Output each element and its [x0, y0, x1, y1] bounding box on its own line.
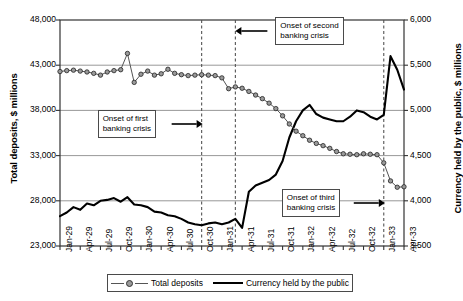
series-marker-total-deposits	[348, 152, 352, 156]
series-marker-total-deposits	[274, 106, 278, 110]
x-axis-tick-label: Apr-33	[408, 226, 418, 252]
series-marker-total-deposits	[375, 153, 379, 157]
series-marker-total-deposits	[166, 67, 170, 71]
annotation-first-line1: Onset of first	[103, 114, 151, 124]
series-marker-total-deposits	[139, 72, 143, 76]
x-axis-tick-label: Jan-33	[387, 226, 397, 252]
series-marker-total-deposits	[233, 85, 237, 89]
x-axis-tick-label: Oct-30	[205, 226, 215, 252]
x-axis-tick-label: Jul-30	[185, 229, 195, 252]
y-axis-left-title: Total deposits, $ millions	[8, 54, 19, 204]
legend-marker-icon-deposits	[126, 280, 133, 287]
series-marker-total-deposits	[321, 143, 325, 147]
series-marker-total-deposits	[368, 152, 372, 156]
x-axis-tick-label: Jul-29	[104, 229, 114, 252]
series-marker-total-deposits	[301, 134, 305, 138]
x-axis-tick-label: Oct-31	[286, 226, 296, 252]
x-axis-tick-label: Oct-29	[124, 226, 134, 252]
x-axis-tick-label: Jul-32	[347, 229, 357, 252]
series-marker-total-deposits	[71, 68, 75, 72]
y-axis-right-tick-label: 5,500	[410, 59, 452, 69]
series-marker-total-deposits	[213, 73, 217, 77]
series-marker-total-deposits	[78, 69, 82, 73]
legend-item-currency: Currency held by the public	[213, 278, 349, 288]
series-marker-total-deposits	[253, 93, 257, 97]
annotation-second-line1: Onset of second	[280, 21, 338, 31]
y-axis-left-tick-label: 28,000	[14, 195, 56, 205]
x-axis-tick-label: Jan-31	[225, 226, 235, 252]
x-axis-tick-label: Apr-29	[84, 226, 94, 252]
series-marker-total-deposits	[314, 141, 318, 145]
series-marker-total-deposits	[65, 68, 69, 72]
series-marker-total-deposits	[206, 73, 210, 77]
y-axis-left-tick-label: 43,000	[14, 59, 56, 69]
series-marker-total-deposits	[220, 76, 224, 80]
series-marker-total-deposits	[382, 161, 386, 165]
series-marker-total-deposits	[179, 72, 183, 76]
legend-item-total-deposits: Total deposits	[111, 278, 203, 288]
series-marker-total-deposits	[287, 122, 291, 126]
series-marker-total-deposits	[260, 96, 264, 100]
series-marker-total-deposits	[145, 69, 149, 73]
x-axis-tick-label: Apr-31	[246, 226, 256, 252]
y-axis-right-tick-label: 5,000	[410, 104, 452, 114]
y-axis-left-tick-label: 38,000	[14, 104, 56, 114]
y-axis-right-title: Currency held by the public, $ millions	[452, 44, 463, 214]
annotation-third-line2: banking crisis	[287, 203, 335, 213]
series-marker-total-deposits	[199, 72, 203, 76]
y-axis-right-tick-label: 6,000	[410, 14, 452, 24]
x-axis-tick-label: Jan-32	[306, 226, 316, 252]
series-marker-total-deposits	[280, 114, 284, 118]
series-marker-total-deposits	[112, 68, 116, 72]
series-marker-total-deposits	[119, 68, 123, 72]
annotation-third-line1: Onset of third	[287, 193, 335, 203]
series-marker-total-deposits	[341, 152, 345, 156]
series-marker-total-deposits	[334, 149, 338, 153]
series-marker-total-deposits	[92, 71, 96, 75]
x-axis-tick-label: Oct-32	[367, 226, 377, 252]
annotation-second-line2: banking crisis	[280, 31, 338, 41]
series-marker-total-deposits	[247, 89, 251, 93]
series-marker-total-deposits	[388, 179, 392, 183]
legend-line-icon-deposits	[111, 283, 124, 284]
series-marker-total-deposits	[132, 80, 136, 84]
series-marker-total-deposits	[172, 71, 176, 75]
series-marker-total-deposits	[355, 153, 359, 157]
x-axis-tick-label: Apr-30	[165, 226, 175, 252]
series-marker-total-deposits	[98, 73, 102, 77]
y-axis-left-tick-label: 48,000	[14, 14, 56, 24]
legend-line-icon-currency	[213, 282, 243, 285]
x-axis-tick-label: Jan-29	[64, 226, 74, 252]
y-axis-left-tick-label: 33,000	[14, 150, 56, 160]
series-marker-total-deposits	[328, 146, 332, 150]
annotation-first-line2: banking crisis	[103, 124, 151, 134]
series-marker-total-deposits	[125, 51, 129, 55]
series-marker-total-deposits	[240, 86, 244, 90]
legend-label-total-deposits: Total deposits	[151, 278, 203, 288]
y-axis-left-tick-label: 23,000	[14, 240, 56, 250]
series-marker-total-deposits	[85, 70, 89, 74]
x-axis-tick-label: Jul-31	[266, 229, 276, 252]
series-marker-total-deposits	[395, 185, 399, 189]
legend-line-icon-deposits-2	[135, 283, 148, 284]
series-marker-total-deposits	[159, 72, 163, 76]
x-axis-tick-label: Apr-32	[327, 226, 337, 252]
series-marker-total-deposits	[361, 152, 365, 156]
series-marker-total-deposits	[105, 70, 109, 74]
series-marker-total-deposits	[226, 87, 230, 91]
annotation-second-banking-crisis: Onset of second banking crisis	[275, 17, 343, 45]
series-marker-total-deposits	[307, 138, 311, 142]
series-marker-total-deposits	[193, 73, 197, 77]
series-marker-total-deposits	[267, 101, 271, 105]
chart-legend: Total deposits Currency held by the publ…	[107, 274, 353, 292]
y-axis-right-tick-label: 4,000	[410, 195, 452, 205]
annotation-third-banking-crisis: Onset of third banking crisis	[282, 189, 340, 217]
series-marker-total-deposits	[402, 185, 406, 189]
series-marker-total-deposits	[152, 73, 156, 77]
series-marker-total-deposits	[186, 73, 190, 77]
legend-label-currency: Currency held by the public	[246, 278, 349, 288]
series-marker-total-deposits	[294, 129, 298, 133]
annotation-first-banking-crisis: Onset of first banking crisis	[98, 110, 156, 138]
